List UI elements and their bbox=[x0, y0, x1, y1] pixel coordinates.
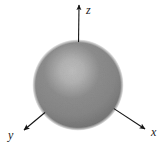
figure-canvas: z x y bbox=[0, 0, 166, 148]
y-axis-label: y bbox=[7, 128, 14, 142]
sphere-body bbox=[33, 40, 124, 131]
sphere bbox=[33, 40, 124, 131]
x-axis-label: x bbox=[150, 125, 157, 139]
sphere-axes-diagram: z x y bbox=[0, 0, 166, 148]
z-axis-label: z bbox=[85, 3, 91, 17]
